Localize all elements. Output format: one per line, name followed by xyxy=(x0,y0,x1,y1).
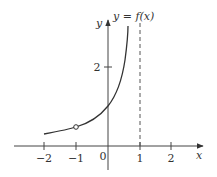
x-axis-label: x xyxy=(196,149,203,162)
graph: −2 −1 0 1 2 x 2 y y = f(x) xyxy=(0,0,217,177)
open-point xyxy=(74,125,79,130)
function-label: y = f(x) xyxy=(112,10,154,23)
x-tick-label: −1 xyxy=(68,152,84,165)
x-tick-label: −2 xyxy=(36,152,52,165)
function-curve xyxy=(44,26,128,134)
x-tick-label: 1 xyxy=(137,152,144,165)
y-tick-label: 2 xyxy=(94,61,101,74)
y-axis-label: y xyxy=(95,17,103,30)
x-tick-label: 2 xyxy=(168,152,175,165)
origin-label: 0 xyxy=(100,150,107,163)
